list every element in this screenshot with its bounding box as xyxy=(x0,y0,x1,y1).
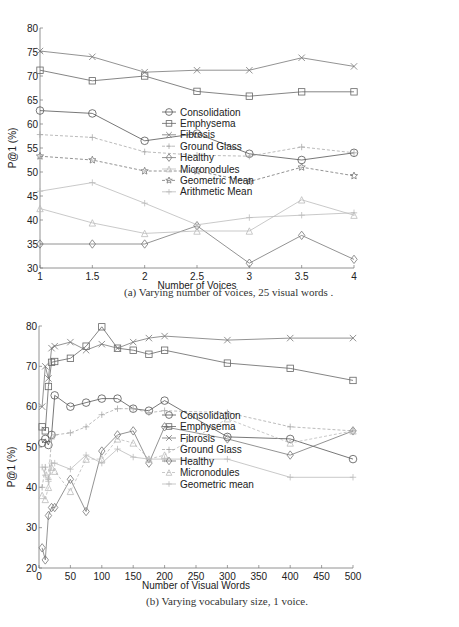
x-tick-label: 50 xyxy=(65,571,77,582)
legend-item: Consolidation xyxy=(162,410,241,421)
legend-label: Geometric mean xyxy=(180,479,254,490)
x-tick-label: 0 xyxy=(36,571,42,582)
y-tick-label: 30 xyxy=(26,522,38,533)
legend: ConsolidationEmphysemaFibrosisGround Gla… xyxy=(162,410,254,490)
legend-label: Consolidation xyxy=(180,410,241,421)
legend-item: Micronodules xyxy=(162,467,239,478)
legend-item: Fibrosis xyxy=(162,433,215,444)
x-tick-label: 350 xyxy=(250,571,267,582)
y-tick-label: 70 xyxy=(26,361,38,372)
y-axis-label: P@1 (%) xyxy=(6,447,17,488)
x-axis-label: Number of Visual Words xyxy=(142,580,250,591)
legend-item: Ground Glass xyxy=(162,444,242,455)
chart-b: 2030405060708005010015020025030035040045… xyxy=(0,0,459,627)
x-tick-label: 500 xyxy=(345,571,362,582)
y-tick-label: 80 xyxy=(26,321,38,332)
legend-label: Emphysema xyxy=(180,421,236,432)
y-tick-label: 50 xyxy=(26,442,38,453)
y-tick-label: 40 xyxy=(26,482,38,493)
legend-item: Geometric mean xyxy=(162,479,254,490)
y-tick-label: 60 xyxy=(26,401,38,412)
legend-label: Ground Glass xyxy=(180,444,242,455)
caption-b: (b) Varying vocabulary size, 1 voice. xyxy=(146,595,308,607)
x-tick-label: 150 xyxy=(125,571,142,582)
legend-item: Emphysema xyxy=(162,421,236,432)
x-tick-label: 100 xyxy=(93,571,110,582)
legend-label: Fibrosis xyxy=(180,433,215,444)
legend-item: Healthy xyxy=(162,456,214,467)
legend-label: Micronodules xyxy=(180,467,239,478)
x-tick-label: 400 xyxy=(282,571,299,582)
series-fibrosis xyxy=(39,333,356,410)
legend-label: Healthy xyxy=(180,456,214,467)
x-tick-label: 450 xyxy=(313,571,330,582)
